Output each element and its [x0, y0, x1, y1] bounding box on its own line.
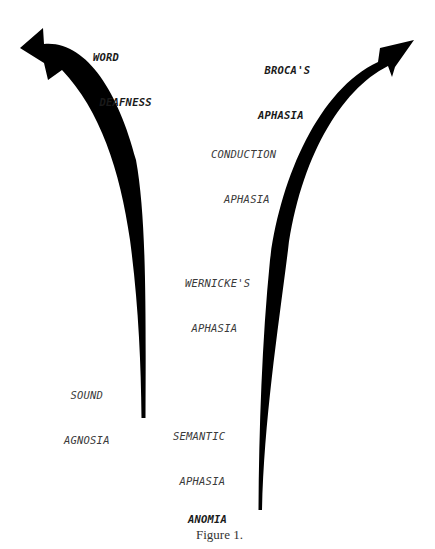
label-semantic-aphasia: SEMANTIC APHASIA: [173, 399, 225, 519]
label-sound-agnosia: SOUND AGNOSIA: [64, 358, 110, 478]
label-wernickes-aphasia: WERNICKE'S APHASIA: [185, 246, 250, 366]
label-word-deafness: WORD DEAFNESS: [93, 20, 152, 140]
label-anomia: ANOMIA: [188, 512, 227, 527]
label-conduction-aphasia: CONDUCTION APHASIA: [211, 117, 276, 237]
figure-caption: Figure 1.: [196, 527, 243, 543]
figure-canvas: WORD DEAFNESS BROCA'S APHASIA CONDUCTION…: [0, 0, 435, 549]
